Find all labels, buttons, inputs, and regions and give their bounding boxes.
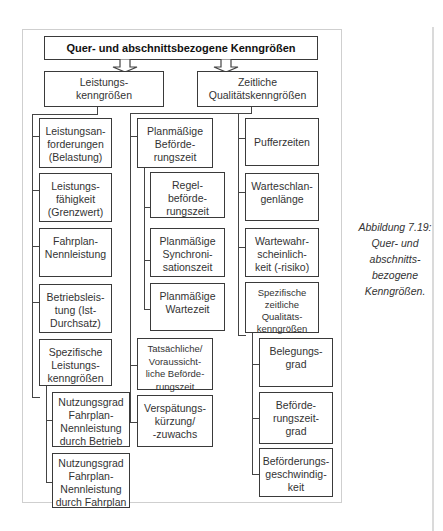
- node-belegungsgrad: Belegungs- grad: [259, 338, 333, 387]
- node-label: Planmäßige Beförde- rungszeit: [147, 125, 203, 164]
- connector: [32, 114, 98, 115]
- node-label: Pufferzeiten: [254, 136, 310, 149]
- connector: [238, 114, 239, 336]
- node-label: Verspätungs- kürzung/ -zuwachs: [144, 402, 206, 441]
- connector: [238, 335, 246, 336]
- node-leistungsfaehigkeit: Leistungs- fähigkeit (Grenzwert): [39, 173, 112, 222]
- node-nutzungsgrad-fahrplan: Nutzungsgrad Fahrplan- Nennleistung durc…: [52, 453, 130, 508]
- branch-leistungskenngroessen: Leistungs- kenngrößen: [44, 71, 164, 107]
- node-label: Spezifische Leistungs- kenngrößen: [47, 346, 103, 385]
- node-nutzungsgrad-betrieb: Nutzungsgrad Fahrplan- Nennleistung durc…: [52, 392, 130, 447]
- node-label: Leistungs- fähigkeit (Grenzwert): [48, 180, 103, 219]
- node-label: Beförderungs- geschwindig- keit: [263, 455, 330, 494]
- node-leistungsanforderungen: Leistungsan- forderungen (Belastung): [39, 118, 112, 168]
- node-pufferzeiten: Pufferzeiten: [245, 118, 319, 166]
- branch-zeitliche-qualitaetskenngroessen: Zeitliche Qualitätskenngrößen: [197, 71, 318, 107]
- connector: [32, 114, 33, 398]
- connector: [130, 113, 131, 423]
- node-tatsaechliche-befoerderungszeit: Tatsächliche/ Voraussicht- liche Beförde…: [137, 338, 213, 390]
- node-label: Nutzungsgrad Fahrplan- Nennleistung durc…: [56, 457, 127, 509]
- node-fahrplan-nennleistung: Fahrplan- Nennleistung: [39, 228, 112, 277]
- node-planmaessige-wartezeit: Planmäßige Wartezeit: [150, 283, 225, 331]
- root-label: Quer- und abschnittsbezogene Kenngrößen: [66, 42, 295, 55]
- caption-text: Abbildung 7.19: Quer- und abschnitts- be…: [359, 221, 432, 297]
- node-label: Nutzungsgrad Fahrplan- Nennleistung durc…: [58, 396, 123, 448]
- node-label: Regel- beförde- rungszeit: [166, 179, 209, 218]
- node-label: Spezifische zeitliche Qualitäts- kenngrö…: [257, 287, 308, 335]
- branch-label: Zeitliche Qualitätskenngrößen: [209, 76, 306, 102]
- node-label: Planmäßige Wartezeit: [159, 290, 215, 316]
- node-label: Planmäßige Synchroni- sationszeit: [159, 235, 215, 274]
- node-label: Belegungs- grad: [269, 345, 322, 371]
- node-planmaessige-befoerderungszeit: Planmäßige Beförde- rungszeit: [137, 118, 213, 168]
- node-befoerderungsgeschwindigkeit: Beförderungs- geschwindig- keit: [259, 448, 333, 497]
- connector: [97, 107, 98, 114]
- node-spezifische-zeitliche-qualitaetskenngroessen: Spezifische zeitliche Qualitäts- kenngrö…: [245, 282, 319, 333]
- node-spezifische-leistungskenngroessen: Spezifische Leistungs- kenngrößen: [39, 339, 112, 386]
- node-betriebsleistung: Betriebsleis- tung (Ist- Durchsatz): [39, 284, 112, 333]
- node-label: Wartewahr- scheinlich- keit (-risiko): [255, 235, 309, 274]
- node-regelbefoerderungszeit: Regel- beförde- rungszeit: [150, 172, 225, 218]
- branch-label: Leistungs- kenngrößen: [76, 76, 132, 102]
- root-node: Quer- und abschnittsbezogene Kenngrößen: [44, 36, 318, 60]
- node-label: Betriebsleis- tung (Ist- Durchsatz): [47, 291, 105, 330]
- node-warteschlangenlaenge: Warteschlan- genlänge: [245, 173, 319, 221]
- connector: [252, 330, 253, 475]
- node-synchronisationszeit: Planmäßige Synchroni- sationszeit: [150, 228, 225, 277]
- node-label: Tatsächliche/ Voraussicht- liche Beförde…: [146, 343, 205, 393]
- node-befoerderungszeitgrad: Beförde- rungszeit- grad: [259, 392, 333, 444]
- node-label: Fahrplan- Nennleistung: [45, 235, 106, 261]
- node-verspaetungskuerzung: Verspätungs- kürzung/ -zuwachs: [137, 395, 213, 447]
- node-label: Warteschlan- genlänge: [251, 180, 312, 206]
- node-label: Beförde- rungszeit- grad: [273, 399, 319, 438]
- connector: [130, 113, 252, 114]
- node-wartewahrscheinlichkeit: Wartewahr- scheinlich- keit (-risiko): [245, 228, 319, 277]
- node-label: Leistungsan- forderungen (Belastung): [45, 125, 105, 164]
- connector: [144, 168, 145, 310]
- connector: [32, 397, 40, 398]
- connector: [46, 384, 47, 483]
- figure-caption: Abbildung 7.19: Quer- und abschnitts- be…: [352, 219, 438, 299]
